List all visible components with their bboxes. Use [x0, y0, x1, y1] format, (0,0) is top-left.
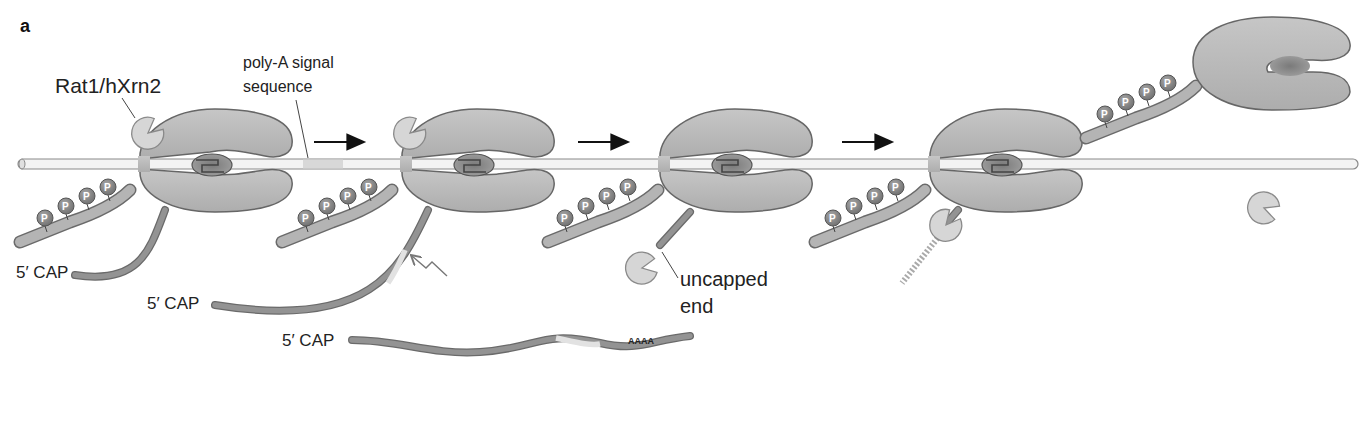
- uncapped-label-line1: uncapped: [680, 268, 768, 290]
- svg-text:P: P: [104, 182, 111, 193]
- rat1-label: Rat1/hXrn2: [55, 74, 161, 97]
- svg-text:P: P: [365, 182, 372, 193]
- released-exonuclease: [1243, 187, 1282, 227]
- svg-text:P: P: [83, 191, 90, 202]
- polya-tail: AAAA: [628, 336, 654, 346]
- svg-text:P: P: [1101, 109, 1108, 120]
- stage-5: P P P P: [1086, 17, 1350, 228]
- svg-text:P: P: [323, 201, 330, 212]
- released-mrna: AAAA 5′ CAP: [282, 331, 690, 352]
- svg-text:P: P: [1122, 97, 1129, 108]
- cap-label-3: 5′ CAP: [282, 331, 334, 350]
- stage-3: P P P P uncapped end: [548, 109, 812, 317]
- cap-label-1: 5′ CAP: [16, 263, 68, 282]
- polya-signal-segment: [303, 160, 343, 169]
- svg-text:P: P: [850, 201, 857, 212]
- svg-text:P: P: [41, 213, 48, 224]
- svg-text:P: P: [561, 213, 568, 224]
- svg-text:P: P: [582, 201, 589, 212]
- cap-label-2: 5′ CAP: [147, 294, 199, 313]
- svg-text:P: P: [302, 213, 309, 224]
- polya-label-line2: sequence: [243, 78, 312, 95]
- panel-letter: a: [20, 16, 31, 36]
- svg-text:P: P: [624, 182, 631, 193]
- released-polymerase: [1193, 17, 1350, 110]
- stage-1: P P P P 5′ CAP: [16, 109, 292, 282]
- svg-text:P: P: [1164, 78, 1171, 89]
- svg-text:P: P: [892, 182, 899, 193]
- svg-text:P: P: [829, 213, 836, 224]
- stage-4: P P P P: [815, 109, 1082, 283]
- polya-label-line1: poly-A signal: [243, 54, 334, 71]
- svg-text:P: P: [62, 201, 69, 212]
- uncapped-label-line2: end: [680, 295, 713, 317]
- svg-text:P: P: [871, 191, 878, 202]
- svg-text:P: P: [1143, 87, 1150, 98]
- svg-text:P: P: [603, 191, 610, 202]
- lightning-arrow-icon: [412, 256, 447, 276]
- svg-text:P: P: [344, 191, 351, 202]
